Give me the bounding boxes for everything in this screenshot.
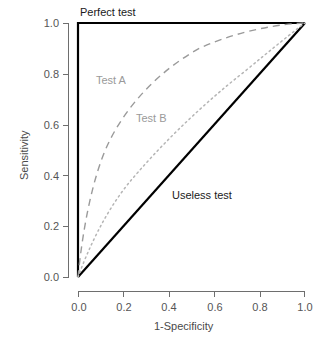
- x-tick-label-0.4: 0.4: [151, 302, 187, 313]
- y-tick-label-0.4: 0.4: [27, 171, 59, 182]
- x-tick-label-0.6: 0.6: [197, 302, 233, 313]
- x-tick-label-0.0: 0.0: [61, 302, 97, 313]
- y-axis: [63, 23, 69, 278]
- x-tick-label-0.8: 0.8: [242, 302, 278, 313]
- label-perfect-test: Perfect test: [80, 7, 136, 18]
- y-tick-label-0.2: 0.2: [27, 221, 59, 232]
- x-tick-label-1.0: 1.0: [287, 302, 323, 313]
- y-axis-title: Sensitivity: [18, 130, 30, 180]
- curve-useless-test: [78, 23, 305, 277]
- label-useless-test: Useless test: [172, 190, 232, 201]
- x-axis-title: 1-Specificity: [154, 320, 213, 332]
- roc-plot-canvas: [0, 0, 324, 338]
- x-axis: [78, 292, 305, 298]
- label-test-b: Test B: [136, 113, 167, 124]
- roc-curve-figure: 1.0 0.8 0.6 0.4 0.2 0.0 0.0 0.2 0.4 0.6 …: [0, 0, 324, 338]
- y-tick-label-0.8: 0.8: [27, 69, 59, 80]
- y-tick-label-0.0: 0.0: [27, 272, 59, 283]
- y-tick-label-1.0: 1.0: [27, 18, 59, 29]
- label-test-a: Test A: [96, 75, 126, 86]
- x-tick-label-0.2: 0.2: [106, 302, 142, 313]
- y-tick-label-0.6: 0.6: [27, 120, 59, 131]
